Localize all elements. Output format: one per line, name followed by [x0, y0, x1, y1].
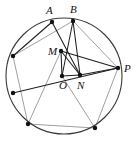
vertex-dot-O	[60, 74, 64, 78]
point-label-layer: ABPMON	[45, 3, 131, 91]
vertex-dot-B	[71, 19, 75, 23]
vertex-dot-P	[116, 66, 120, 70]
point-label-N: N	[76, 79, 85, 91]
segment-N-P	[80, 68, 118, 75]
point-label-M: M	[47, 45, 58, 57]
vertex-dot-Q4	[93, 126, 97, 130]
segment-Q1-B	[13, 21, 73, 56]
geometry-canvas: ABPMON	[0, 0, 137, 146]
vertex-dot-Q3	[26, 122, 30, 126]
vertex-dot-layer	[11, 19, 120, 130]
segment-M-O	[61, 51, 62, 76]
vertex-dot-Q2	[11, 91, 15, 95]
light-chord-layer	[13, 21, 118, 128]
point-label-O: O	[59, 79, 67, 91]
point-label-P: P	[123, 62, 131, 74]
vertex-dot-Q1	[11, 54, 15, 58]
point-label-A: A	[45, 4, 53, 16]
vertex-dot-A	[50, 20, 54, 24]
segment-Q4-P	[95, 68, 118, 128]
geometry-figure: ABPMON	[0, 0, 137, 146]
segment-B-O	[62, 21, 73, 76]
vertex-dot-N	[78, 73, 82, 77]
segment-M-Q3	[28, 51, 61, 124]
vertex-dot-M	[59, 49, 63, 53]
segment-O-N	[62, 75, 80, 76]
point-label-B: B	[70, 3, 77, 15]
